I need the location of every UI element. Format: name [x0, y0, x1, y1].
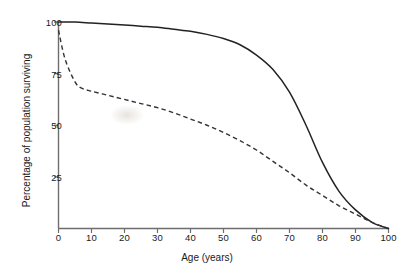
x-tick-label: 50 — [218, 232, 229, 243]
x-tick-label: 40 — [185, 232, 196, 243]
y-tick-label: 100 — [46, 17, 62, 28]
x-tick-label: 90 — [350, 232, 361, 243]
y-tick-label: 75 — [51, 68, 62, 79]
x-axis-title: Age (years) — [0, 252, 414, 263]
y-tick-label: 25 — [51, 171, 62, 182]
x-tick-label: 70 — [284, 232, 295, 243]
x-tick-label: 100 — [380, 232, 396, 243]
x-tick-label: 10 — [86, 232, 97, 243]
y-axis-title: Percentage of population surviving — [21, 31, 32, 231]
dashed-survivorship-curve — [59, 30, 389, 228]
y-tick-label: 50 — [51, 120, 62, 131]
x-tick-label: 20 — [119, 232, 130, 243]
x-tick-label: 80 — [317, 232, 328, 243]
solid-survivorship-curve — [59, 22, 389, 229]
x-tick-label: 30 — [152, 232, 163, 243]
survivorship-chart: 0102030405060708090100 255075100 Age (ye… — [0, 0, 414, 280]
x-tick-label: 60 — [251, 232, 262, 243]
x-tick-label: 0 — [56, 232, 61, 243]
